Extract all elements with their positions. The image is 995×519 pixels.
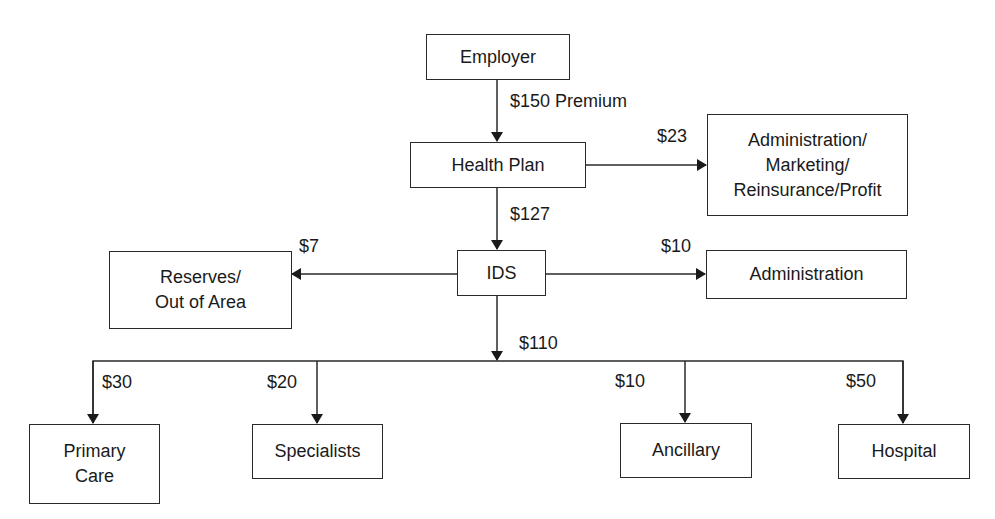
node-ids: IDS — [457, 250, 546, 296]
edge-label-reserves: $7 — [299, 236, 319, 256]
node-primary-care: Primary Care — [29, 424, 160, 504]
flow-diagram: Employer Health Plan Administration/ Mar… — [0, 0, 995, 519]
node-ancillary: Ancillary — [620, 423, 752, 478]
edge-label-admin-marketing: $23 — [657, 126, 687, 146]
node-specialists-label: Specialists — [274, 439, 360, 464]
node-reserves: Reserves/ Out of Area — [109, 251, 292, 329]
edge-label-specialists: $20 — [267, 372, 297, 392]
edge-label-administration: $10 — [661, 236, 691, 256]
node-administration-label: Administration — [749, 262, 863, 287]
node-employer-label: Employer — [460, 45, 536, 70]
node-primary-care-label: Primary Care — [64, 439, 126, 489]
node-hospital-label: Hospital — [871, 439, 936, 464]
edge-label-hospital: $50 — [846, 371, 876, 391]
edge-label-providers: $110 — [519, 333, 558, 353]
distribution-bar — [93, 361, 903, 423]
edge-label-ancillary: $10 — [615, 371, 645, 391]
node-specialists: Specialists — [252, 424, 383, 479]
node-admin-marketing-label: Administration/ Marketing/ Reinsurance/P… — [733, 128, 881, 203]
node-admin-marketing: Administration/ Marketing/ Reinsurance/P… — [707, 114, 908, 216]
edge-label-ids: $127 — [510, 204, 550, 224]
node-ancillary-label: Ancillary — [652, 438, 720, 463]
edge-label-primary-care: $30 — [102, 372, 132, 392]
edge-label-premium: $150 Premium — [510, 91, 627, 111]
node-administration: Administration — [706, 250, 907, 299]
node-reserves-label: Reserves/ Out of Area — [155, 265, 246, 315]
node-health-plan-label: Health Plan — [451, 153, 544, 178]
node-employer: Employer — [426, 34, 570, 80]
node-hospital: Hospital — [838, 424, 970, 479]
node-health-plan: Health Plan — [410, 142, 586, 188]
node-ids-label: IDS — [486, 261, 516, 286]
